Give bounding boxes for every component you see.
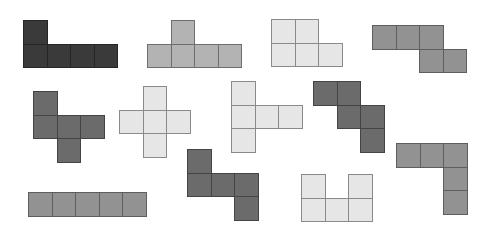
shape-cell [295,19,320,44]
shape-cell [234,196,259,221]
shape-cell [301,198,326,223]
shape-cell [419,49,444,74]
shape-cell [147,44,172,69]
shape-cell [166,110,191,135]
shape-cell [171,44,196,69]
shape-cell [420,143,445,168]
shape-cell [99,192,124,217]
shape-cell [295,43,320,68]
shape-cell [52,192,77,217]
shape-cell [348,198,373,223]
shape-cell [313,81,338,106]
shape-cell [278,105,303,130]
shape-cell [23,20,48,45]
shape-cell [337,105,362,130]
shape-cell [255,105,280,130]
shape-cell [231,128,256,153]
shape-cell [218,44,243,69]
shape-cell [143,110,168,135]
shape-cell [119,110,144,135]
shape-cell [234,173,259,198]
shape-cell [372,25,397,50]
shape-cell [57,138,82,163]
shape-cell [360,105,385,130]
shape-cell [301,174,326,199]
shape-cell [443,49,468,74]
shape-cell [348,174,373,199]
shape-cell [33,91,58,116]
shape-cell [337,81,362,106]
shape-cell [231,81,256,106]
shape-cell [143,86,168,111]
shape-cell [94,44,119,69]
shape-cell [47,44,72,69]
shape-cell [122,192,147,217]
shape-cell [194,44,219,69]
shape-cell [143,133,168,158]
shape-cell [28,192,53,217]
shape-cell [318,43,343,68]
shape-cell [325,198,350,223]
shape-cell [271,43,296,68]
shape-cell [443,190,468,215]
shape-cell [23,44,48,69]
shape-cell [231,105,256,130]
shape-cell [187,149,212,174]
shape-cell [443,167,468,192]
shape-cell [396,143,421,168]
shape-cell [443,143,468,168]
shape-cell [57,115,82,140]
shape-cell [187,173,212,198]
shape-cell [396,25,421,50]
shape-cell [271,19,296,44]
shape-cell [70,44,95,69]
shape-cell [75,192,100,217]
shape-cell [419,25,444,50]
pentomino-canvas [0,0,489,240]
shape-cell [360,128,385,153]
shape-cell [80,115,105,140]
shape-cell [211,173,236,198]
shape-cell [33,115,58,140]
shape-cell [171,20,196,45]
